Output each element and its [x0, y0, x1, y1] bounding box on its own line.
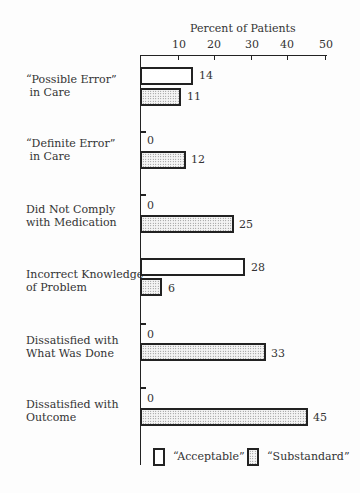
category-label: “Definite Error” in Care: [26, 137, 115, 163]
legend-label-acceptable: “Acceptable”: [173, 450, 245, 463]
x-tick: [325, 55, 326, 60]
tick-label-50: 50: [319, 38, 333, 51]
zero-bar-acceptable: [140, 194, 146, 196]
bar-substandard: [140, 88, 181, 106]
zero-bar-acceptable: [140, 323, 146, 325]
value-label: 0: [147, 328, 154, 341]
bar-substandard: [140, 408, 308, 426]
x-tick: [287, 55, 288, 60]
tick-label-10: 10: [172, 38, 186, 51]
bar-substandard: [140, 278, 162, 296]
bar-acceptable: [140, 67, 193, 85]
category-label: Dissatisfied with Outcome: [26, 398, 119, 424]
value-label: 11: [187, 90, 201, 103]
value-label: 0: [147, 199, 154, 212]
x-axis-line: [140, 55, 327, 56]
value-label: 28: [251, 261, 265, 274]
value-label: 25: [239, 218, 253, 231]
category-label: Did Not Comply with Medication: [26, 203, 117, 229]
tick-label-30: 30: [245, 38, 259, 51]
category-label: Dissatisfied with What Was Done: [26, 334, 119, 360]
x-axis-title: Percent of Patients: [190, 22, 296, 35]
legend-swatch-substandard: [247, 448, 259, 466]
value-label: 45: [313, 411, 327, 424]
legend-swatch-acceptable: [153, 448, 165, 466]
value-label: 33: [271, 347, 285, 360]
tick-label-40: 40: [280, 38, 294, 51]
x-tick: [214, 55, 215, 60]
zero-bar-acceptable: [140, 387, 146, 389]
bar-substandard: [140, 343, 266, 361]
tick-label-20: 20: [207, 38, 221, 51]
x-tick: [251, 55, 252, 60]
bar-substandard: [140, 215, 234, 233]
zero-bar-acceptable: [140, 131, 146, 133]
bar-substandard: [140, 151, 186, 169]
value-label: 6: [168, 282, 175, 295]
x-tick: [178, 55, 179, 60]
value-label: 14: [199, 69, 213, 82]
value-label: 0: [147, 134, 154, 147]
legend-label-substandard: “Substandard”: [267, 450, 350, 463]
value-label: 0: [147, 392, 154, 405]
value-label: 12: [191, 153, 205, 166]
category-label: Incorrect Knowledge of Problem: [26, 268, 143, 294]
bar-acceptable: [140, 258, 245, 276]
category-label: “Possible Error” in Care: [26, 73, 117, 99]
